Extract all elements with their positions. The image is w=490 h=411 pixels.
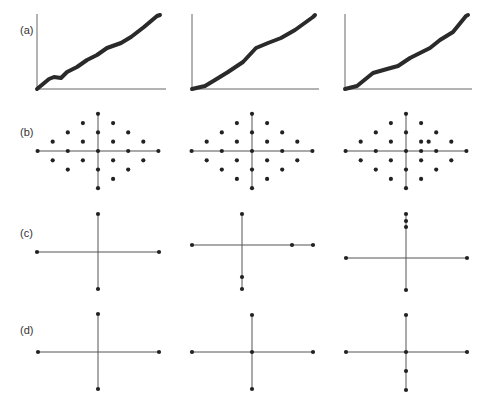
node-dot	[465, 256, 469, 260]
node-dot	[35, 250, 39, 254]
lattice-dot	[280, 130, 284, 134]
curve-panel-1	[37, 14, 166, 89]
lattice-dot	[250, 149, 254, 153]
curve-panel-2	[192, 14, 319, 89]
lattice-dot	[96, 186, 100, 190]
lattice-dot	[66, 149, 70, 153]
node-dot	[404, 369, 408, 373]
lattice-dot	[220, 130, 224, 134]
lattice-dot	[235, 121, 239, 125]
lattice-dot	[310, 149, 314, 153]
node-dot	[190, 350, 194, 354]
lattice-dot	[404, 112, 408, 116]
lattice-dot	[464, 149, 468, 153]
cross-panel-d-1	[36, 312, 161, 391]
lattice-dot	[427, 140, 431, 144]
node-dot	[157, 350, 161, 354]
lattice-dot	[220, 149, 224, 153]
row-label-a: (a)	[20, 25, 33, 36]
lattice-dot	[96, 112, 100, 116]
lattice-dot	[66, 168, 70, 172]
node-dot	[250, 313, 254, 317]
node-dot	[404, 225, 408, 229]
lattice-dot	[36, 149, 40, 153]
lattice-dot	[265, 177, 269, 181]
node-dot	[344, 256, 348, 260]
figure-canvas	[0, 0, 490, 411]
lattice-dot	[235, 140, 239, 144]
curve-panel-3	[345, 14, 472, 89]
lattice-dot	[111, 121, 115, 125]
lattice-dot	[111, 158, 115, 162]
lattice-dot	[235, 158, 239, 162]
lattice-panel-3	[344, 112, 469, 191]
lattice-dot	[96, 168, 100, 172]
lattice-dot	[404, 149, 408, 153]
node-dot	[404, 219, 408, 223]
lattice-dot	[205, 140, 209, 144]
node-dot	[404, 212, 408, 216]
node-dot	[250, 387, 254, 391]
lattice-dot	[96, 130, 100, 134]
lattice-dot	[389, 121, 393, 125]
lattice-dot	[280, 149, 284, 153]
lattice-dot	[265, 140, 269, 144]
node-dot	[290, 243, 294, 247]
row-label-d: (d)	[20, 325, 33, 336]
lattice-dot	[66, 130, 70, 134]
lattice-dot	[389, 177, 393, 181]
lattice-dot	[295, 158, 299, 162]
node-dot	[404, 350, 408, 354]
lattice-dot	[51, 140, 55, 144]
lattice-dot	[404, 186, 408, 190]
node-dot	[240, 212, 244, 216]
lattice-dot	[51, 158, 55, 162]
row-b-lattices	[36, 112, 469, 191]
lattice-dot	[126, 130, 130, 134]
lattice-dot	[404, 130, 408, 134]
cross-panel-c-1	[35, 212, 161, 291]
lattice-dot	[419, 121, 423, 125]
lattice-dot	[295, 140, 299, 144]
lattice-dot	[404, 168, 408, 172]
lattice-dot	[111, 140, 115, 144]
node-dot	[311, 350, 315, 354]
node-dot	[240, 287, 244, 291]
lattice-dot	[141, 140, 145, 144]
lattice-dot	[434, 149, 438, 153]
lattice-dot	[156, 149, 160, 153]
lattice-dot	[419, 140, 423, 144]
node-dot	[404, 313, 408, 317]
cross-panel-d-2	[190, 313, 315, 391]
lattice-dot	[126, 149, 130, 153]
lattice-dot	[449, 140, 453, 144]
lattice-dot	[344, 149, 348, 153]
node-dot	[96, 212, 100, 216]
data-curve	[192, 15, 315, 89]
row-label-b: (b)	[20, 127, 33, 138]
lattice-dot	[419, 177, 423, 181]
node-dot	[36, 350, 40, 354]
lattice-dot	[190, 149, 194, 153]
lattice-dot	[220, 168, 224, 172]
lattice-dot	[250, 112, 254, 116]
lattice-dot	[374, 149, 378, 153]
lattice-dot	[359, 158, 363, 162]
lattice-dot	[81, 121, 85, 125]
node-dot	[344, 350, 348, 354]
node-dot	[465, 350, 469, 354]
node-dot	[190, 243, 194, 247]
node-dot	[311, 243, 315, 247]
row-a-curves	[37, 14, 472, 89]
lattice-dot	[434, 168, 438, 172]
row-c-crosses	[35, 212, 469, 292]
lattice-dot	[111, 177, 115, 181]
row-label-c: (c)	[20, 228, 33, 239]
lattice-dot	[250, 130, 254, 134]
node-dot	[404, 388, 408, 392]
lattice-dot	[280, 168, 284, 172]
lattice-dot	[419, 149, 423, 153]
lattice-dot	[374, 130, 378, 134]
cross-panel-c-3	[344, 212, 469, 292]
lattice-dot	[205, 158, 209, 162]
